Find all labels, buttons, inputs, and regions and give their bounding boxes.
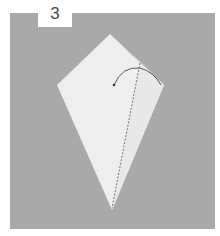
arrow-start-dot <box>113 84 116 87</box>
step-number: 3 <box>50 4 59 24</box>
step-number-label: 3 <box>38 0 72 27</box>
origami-diagram <box>0 0 220 236</box>
